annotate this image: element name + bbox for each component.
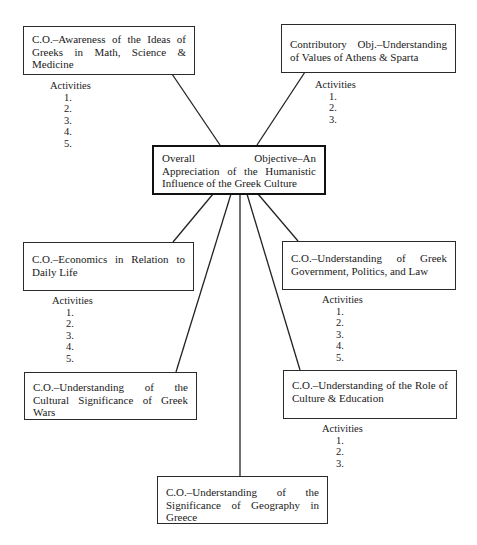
objective-label: C.O.–Economics in Relation to Daily Life — [32, 253, 185, 278]
activities-list-government: Activities 1. 2. 3. 4. 5. — [322, 294, 363, 363]
activities-header: Activities — [322, 294, 363, 306]
objective-label: Contributory Obj.–Understanding of Value… — [290, 38, 447, 63]
activities-list-culture-education: Activities 1. 2. 3. — [322, 423, 363, 469]
activities-header: Activities — [50, 80, 91, 92]
objective-box-geography: C.O.–Understanding of the Significance o… — [157, 476, 328, 524]
activity-item: 3. — [329, 114, 356, 126]
objective-box-math-science-medicine: C.O.–Awareness of the Ideas of Greeks in… — [23, 26, 195, 75]
activity-item: 1. — [64, 92, 91, 104]
edge-athens-to-center — [257, 72, 305, 145]
activity-item: 3. — [336, 329, 363, 341]
activities-list-economics: Activities 1. 2. 3. 4. 5. — [52, 295, 93, 364]
activity-item: 4. — [66, 341, 93, 353]
activities-header: Activities — [52, 295, 93, 307]
objective-box-economics: C.O.–Economics in Relation to Daily Life — [23, 242, 194, 291]
activity-item: 1. — [336, 435, 363, 447]
edge-center-to-government — [258, 194, 298, 241]
activity-item: 1. — [336, 306, 363, 318]
objective-box-wars: C.O.–Understanding of the Cultural Signi… — [24, 372, 197, 420]
activities-list-athens-sparta: Activities 1. 2. 3. — [315, 79, 356, 125]
activity-item: 3. — [336, 458, 363, 470]
activity-item: 5. — [336, 352, 363, 364]
objective-label: C.O.–Awareness of the Ideas of Greeks in… — [32, 33, 186, 70]
activity-item: 2. — [336, 317, 363, 329]
overall-objective-label: Overall Objective–An Appreciation of the… — [162, 152, 316, 189]
activities-list-math-science-medicine: Activities 1. 2. 3. 4. 5. — [50, 80, 91, 149]
activity-item: 3. — [66, 330, 93, 342]
activity-item: 2. — [64, 103, 91, 115]
activity-item: 1. — [66, 307, 93, 319]
activity-item: 3. — [64, 115, 91, 127]
activity-item: 2. — [66, 318, 93, 330]
activities-header: Activities — [322, 423, 363, 435]
objective-label: C.O.–Understanding of the Cultural Signi… — [33, 381, 188, 418]
activity-item: 5. — [64, 138, 91, 150]
objective-label: C.O.–Understanding of Greek Government, … — [291, 252, 447, 277]
edge-center-to-economics — [173, 194, 213, 242]
activity-item: 4. — [64, 126, 91, 138]
objective-box-athens-sparta: Contributory Obj.–Understanding of Value… — [281, 24, 456, 73]
activity-item: 5. — [66, 353, 93, 365]
activity-item: 4. — [336, 340, 363, 352]
overall-objective-box: Overall Objective–An Appreciation of the… — [152, 145, 326, 195]
objective-label: C.O.–Understanding of the Role of Cultur… — [292, 379, 448, 404]
edge-math-to-center — [172, 74, 220, 145]
activity-item: 2. — [329, 102, 356, 114]
objective-label: C.O.–Understanding of the Significance o… — [166, 486, 319, 523]
activity-item: 2. — [336, 446, 363, 458]
activities-header: Activities — [315, 79, 356, 91]
objective-box-culture-education: C.O.–Understanding of the Role of Cultur… — [283, 370, 457, 419]
activity-item: 1. — [329, 91, 356, 103]
objective-box-government: C.O.–Understanding of Greek Government, … — [282, 241, 456, 290]
